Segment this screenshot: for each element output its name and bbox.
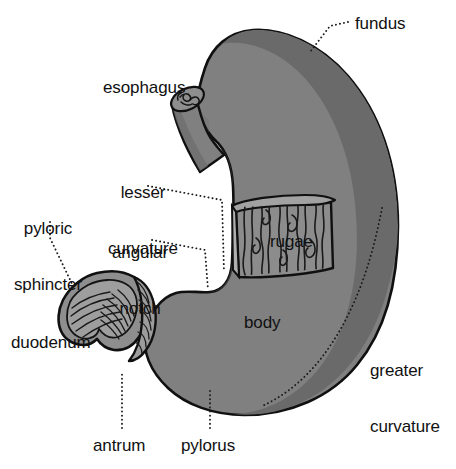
label-pyloric-sphincter-line2: sphincter [4,276,92,295]
label-duodenum: duodenum [11,333,91,352]
label-fundus: fundus [355,14,405,33]
label-angular-notch: angular notch [97,207,183,357]
label-pyloric-sphincter: pyloric sphincter [4,183,92,333]
label-rugae: rugae [270,232,313,251]
label-esophagus: esophagus [103,78,185,97]
label-body: body [244,313,280,332]
label-antrum: antrum [93,436,145,455]
label-greater-curvature: greater curvature [370,325,456,469]
label-angular-notch-line1: angular [97,244,183,263]
label-pyloric-sphincter-line1: pyloric [4,220,92,239]
label-lesser-curvature-line1: lesser [99,184,187,203]
label-greater-curvature-line1: greater [370,362,456,381]
label-greater-curvature-line2: curvature [370,418,456,437]
label-pylorus: pylorus [181,436,235,455]
label-angular-notch-line2: notch [97,300,183,319]
stomach-anatomy-diagram: fundus esophagus lesser curvature pylori… [0,0,456,469]
